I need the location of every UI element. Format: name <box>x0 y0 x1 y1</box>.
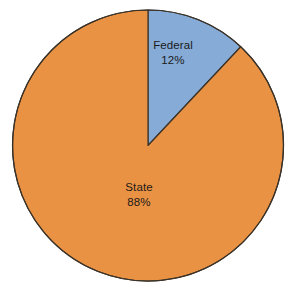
state-label-value: 88% <box>125 195 152 210</box>
pie-chart-canvas <box>0 0 302 293</box>
pie-slice-state[interactable] <box>13 10 284 281</box>
federal-label-value: 12% <box>153 53 193 68</box>
state-label-name: State <box>125 180 152 195</box>
pie-slice-label-federal: Federal 12% <box>153 38 193 67</box>
pie-chart-figure: Federal 12% State 88% <box>0 0 302 293</box>
pie-slice-label-state: State 88% <box>125 180 152 209</box>
federal-label-name: Federal <box>153 38 193 53</box>
pie-slices-group <box>13 10 284 281</box>
